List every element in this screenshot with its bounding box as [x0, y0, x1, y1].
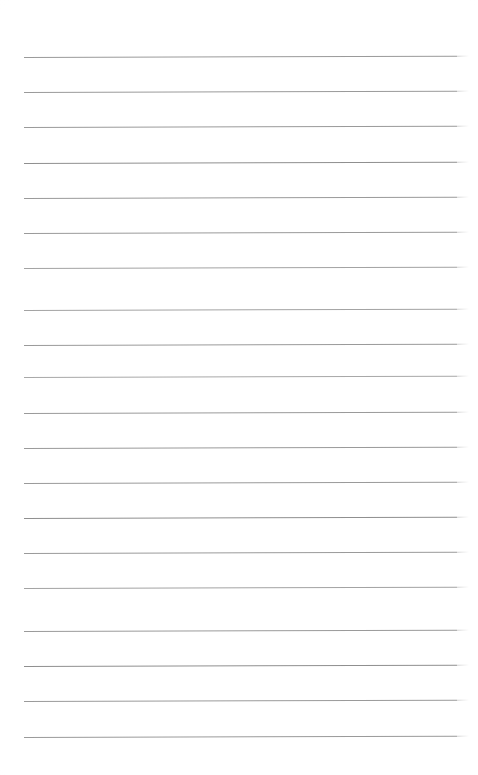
paper-texture-overlay	[0, 0, 478, 775]
rule-line	[24, 56, 457, 58]
rule-line	[24, 232, 457, 234]
rule-line	[24, 552, 457, 554]
rule-line	[24, 700, 457, 702]
rule-line	[24, 344, 457, 346]
rule-line	[24, 162, 457, 164]
rule-line	[24, 665, 457, 667]
rule-line	[24, 517, 457, 519]
rule-line	[24, 376, 457, 378]
rule-line	[24, 447, 457, 449]
rule-line	[24, 197, 457, 199]
rule-line	[24, 126, 457, 128]
rule-line	[24, 482, 457, 484]
rule-line	[24, 267, 457, 269]
rule-line	[24, 736, 457, 738]
rule-line	[24, 587, 457, 589]
rule-line	[24, 412, 457, 414]
rule-line	[24, 309, 457, 311]
rule-line	[24, 630, 457, 632]
rule-line	[24, 91, 457, 93]
lined-paper-page	[0, 0, 478, 775]
